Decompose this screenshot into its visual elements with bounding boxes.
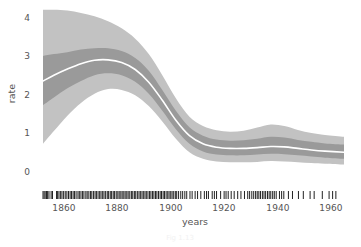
x-tick-label-1940: 1940 bbox=[258, 203, 298, 213]
y-tick-label-3: 3 bbox=[8, 51, 30, 61]
chart-figure: 4 3 2 1 0 1860 1880 1900 1920 1940 1960 … bbox=[0, 0, 361, 247]
x-axis-title: years bbox=[175, 216, 215, 227]
figure-caption: Fig 1.13 bbox=[150, 234, 210, 242]
x-tick-label-1900: 1900 bbox=[151, 203, 191, 213]
inner-band-group bbox=[43, 48, 344, 159]
y-tick-label-4: 4 bbox=[8, 13, 30, 23]
y-tick-label-0: 0 bbox=[8, 167, 30, 177]
y-tick-label-1: 1 bbox=[8, 128, 30, 138]
x-tick-label-1920: 1920 bbox=[204, 203, 244, 213]
x-tick-label-1860: 1860 bbox=[44, 203, 84, 213]
x-tick-label-1880: 1880 bbox=[97, 203, 137, 213]
x-tick-label-1960: 1960 bbox=[311, 203, 351, 213]
y-axis-title: rate bbox=[6, 74, 17, 114]
inner-credible-band bbox=[43, 48, 344, 159]
rug-plot bbox=[43, 191, 336, 199]
